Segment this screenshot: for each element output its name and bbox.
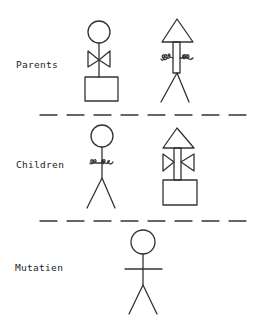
box-lower-icon — [163, 180, 197, 205]
legs-icon — [161, 73, 189, 102]
parent-2-figure — [161, 19, 193, 102]
mutation-figure — [125, 230, 162, 314]
legs-icon — [129, 285, 157, 314]
triangle-head-icon — [163, 128, 194, 148]
circle-head-icon — [131, 230, 155, 254]
wiggle-arm-left-icon — [90, 160, 102, 164]
wiggle-arm-left-icon — [161, 54, 173, 60]
parent-1-figure — [85, 21, 118, 101]
wiggle-arm-right-icon — [180, 55, 193, 60]
genetic-crossover-diagram: Parents Children Mutatien — [0, 0, 257, 335]
circle-head-icon — [91, 125, 113, 147]
rect-body — [173, 42, 180, 73]
child-2-figure — [163, 128, 197, 205]
child-1-figure — [87, 125, 115, 208]
diagram-drawing — [0, 0, 257, 335]
box-lower-icon — [85, 77, 118, 101]
bowtie-arm-left-icon — [163, 154, 174, 171]
rect-body — [174, 148, 181, 180]
triangle-head-icon — [162, 19, 193, 42]
bowtie-arm-right-icon — [181, 154, 194, 171]
legs-icon — [87, 178, 115, 208]
wiggle-arm-right-icon — [102, 160, 113, 164]
circle-head-icon — [88, 21, 110, 43]
